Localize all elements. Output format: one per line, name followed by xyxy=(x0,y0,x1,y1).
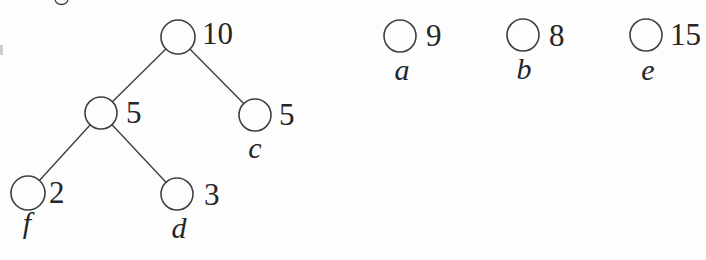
node-circle-a xyxy=(384,20,416,52)
left-edge-artifact xyxy=(0,45,3,55)
node-letter-a: a xyxy=(395,53,410,86)
node-value-e: 15 xyxy=(670,17,701,52)
node-value-root: 10 xyxy=(202,16,233,51)
page-text-fragment xyxy=(55,0,68,5)
node-letter-c: c xyxy=(248,131,261,164)
node-circle-d xyxy=(161,178,193,210)
node-letter-e: e xyxy=(641,53,654,86)
node-circle-f xyxy=(11,176,45,210)
tree-diagram-canvas: 10 5 5 2 3 c f d 9 8 15 a b e xyxy=(0,0,706,260)
node-value-c: 5 xyxy=(279,97,295,132)
huffman-tree-figure: 10 5 5 2 3 c f d 9 8 15 a b e xyxy=(0,0,706,260)
node-circle-c xyxy=(239,99,271,131)
node-letter-d: d xyxy=(172,211,188,244)
node-value-b: 8 xyxy=(549,18,565,53)
node-circle-e xyxy=(630,19,662,51)
node-letter-b: b xyxy=(517,52,532,85)
node-value-f: 2 xyxy=(49,175,65,210)
node-value-internal: 5 xyxy=(126,95,142,130)
node-value-a: 9 xyxy=(426,18,442,53)
node-circle-internal xyxy=(85,97,117,129)
node-circle-root xyxy=(161,20,195,54)
node-value-d: 3 xyxy=(204,177,220,212)
node-circle-b xyxy=(507,19,539,51)
node-letter-f: f xyxy=(23,206,35,239)
